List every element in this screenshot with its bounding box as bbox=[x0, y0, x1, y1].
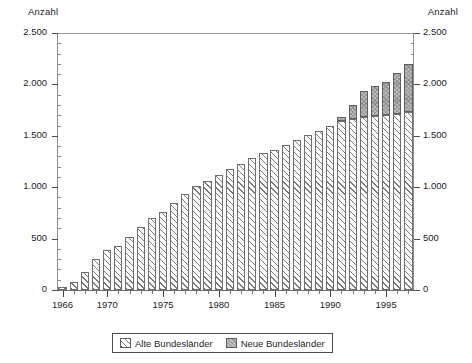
bar-segment-alte-bundeslaender bbox=[58, 287, 66, 290]
y-axis-tick-right bbox=[414, 136, 420, 137]
legend-item-neue-bundeslaender: Neue Bundesländer bbox=[226, 338, 325, 349]
x-axis-tick-minor bbox=[141, 291, 142, 294]
x-axis-tick-minor bbox=[96, 291, 97, 294]
bar-segment-alte-bundeslaender bbox=[125, 237, 133, 290]
y-axis-label-right: 1.500 bbox=[423, 129, 469, 140]
chart-container: Anzahl Anzahl 05001.0001.5002.0002.500 0… bbox=[0, 0, 472, 363]
y-axis-label-left: 500 bbox=[5, 232, 47, 243]
bar-segment-alte-bundeslaender bbox=[337, 121, 345, 290]
x-axis-tick-minor bbox=[397, 291, 398, 294]
legend-label-neue-bundeslaender: Neue Bundesländer bbox=[241, 338, 325, 349]
bar-segment-neue-bundeslaender bbox=[371, 86, 379, 116]
x-axis-tick-minor bbox=[375, 291, 376, 294]
bar-segment-alte-bundeslaender bbox=[404, 112, 412, 290]
bar-segment-alte-bundeslaender bbox=[393, 114, 401, 290]
bar-stack bbox=[349, 33, 357, 290]
bar-segment-alte-bundeslaender bbox=[159, 212, 167, 290]
bar-segment-alte-bundeslaender bbox=[360, 117, 368, 290]
bar-segment-alte-bundeslaender bbox=[304, 135, 312, 290]
bar-stack bbox=[248, 33, 256, 290]
bar-stack bbox=[337, 33, 345, 290]
x-axis-tick-major bbox=[219, 291, 220, 297]
y-axis-label-left: 0 bbox=[5, 283, 47, 294]
bar-stack bbox=[382, 33, 390, 290]
bar-stack bbox=[237, 33, 245, 290]
x-axis-tick-minor bbox=[297, 291, 298, 294]
y-axis-label-left: 2.500 bbox=[5, 26, 47, 37]
x-axis-tick-major bbox=[386, 291, 387, 297]
bar-stack bbox=[293, 33, 301, 290]
bar-stack bbox=[371, 33, 379, 290]
plot-area bbox=[57, 33, 414, 290]
y-axis-label-left: 1.500 bbox=[5, 129, 47, 140]
bar-stack bbox=[203, 33, 211, 290]
x-axis-tick-minor bbox=[341, 291, 342, 294]
y-axis-tick-right bbox=[414, 290, 420, 291]
bar-segment-alte-bundeslaender bbox=[349, 119, 357, 290]
x-axis-tick-minor bbox=[196, 291, 197, 294]
bar-segment-alte-bundeslaender bbox=[92, 259, 100, 290]
y-axis-tick-left bbox=[52, 290, 58, 291]
bar-segment-alte-bundeslaender bbox=[137, 227, 145, 290]
y-axis-label-left: 2.000 bbox=[5, 77, 47, 88]
x-axis-tick-minor bbox=[118, 291, 119, 294]
bar-segment-alte-bundeslaender bbox=[282, 145, 290, 290]
bar-stack bbox=[393, 33, 401, 290]
bar-stack bbox=[114, 33, 122, 290]
legend-swatch-gray-icon bbox=[226, 338, 237, 348]
x-axis-tick-minor bbox=[241, 291, 242, 294]
bar-segment-alte-bundeslaender bbox=[293, 140, 301, 290]
x-axis-tick-major bbox=[107, 291, 108, 297]
x-axis-tick-minor bbox=[364, 291, 365, 294]
bar-stack bbox=[192, 33, 200, 290]
x-axis-tick-minor bbox=[230, 291, 231, 294]
bar-stack bbox=[215, 33, 223, 290]
bar-segment-alte-bundeslaender bbox=[215, 175, 223, 290]
x-axis-tick-minor bbox=[74, 291, 75, 294]
bar-segment-alte-bundeslaender bbox=[114, 246, 122, 290]
bar-stack bbox=[404, 33, 412, 290]
bar-segment-neue-bundeslaender bbox=[382, 82, 390, 115]
bar-stack bbox=[70, 33, 78, 290]
x-axis-tick-major bbox=[163, 291, 164, 297]
bar-segment-neue-bundeslaender bbox=[393, 73, 401, 114]
x-axis-label: 1990 bbox=[320, 299, 341, 310]
bar-stack bbox=[58, 33, 66, 290]
x-axis-tick-minor bbox=[319, 291, 320, 294]
x-axis-tick-minor bbox=[353, 291, 354, 294]
x-axis-line bbox=[57, 290, 414, 291]
bar-stack bbox=[103, 33, 111, 290]
bar-stack bbox=[226, 33, 234, 290]
bar-segment-neue-bundeslaender bbox=[404, 64, 412, 112]
bar-segment-alte-bundeslaender bbox=[326, 126, 334, 290]
x-axis-label: 1975 bbox=[152, 299, 173, 310]
x-axis-tick-minor bbox=[308, 291, 309, 294]
x-axis-tick-minor bbox=[85, 291, 86, 294]
y-axis-right-caption: Anzahl bbox=[428, 6, 458, 17]
y-axis-tick-right bbox=[414, 187, 420, 188]
x-axis-tick-minor bbox=[174, 291, 175, 294]
y-axis-label-right: 0 bbox=[423, 283, 469, 294]
chart-legend: Alte Bundesländer Neue Bundesländer bbox=[112, 333, 333, 353]
bar-segment-alte-bundeslaender bbox=[371, 116, 379, 290]
bar-segment-alte-bundeslaender bbox=[237, 164, 245, 290]
bar-stack bbox=[137, 33, 145, 290]
x-axis-label: 1970 bbox=[97, 299, 118, 310]
bar-segment-alte-bundeslaender bbox=[248, 158, 256, 290]
bar-stack bbox=[270, 33, 278, 290]
x-axis-label: 1995 bbox=[376, 299, 397, 310]
x-axis-tick-major bbox=[275, 291, 276, 297]
legend-item-alte-bundeslaender: Alte Bundesländer bbox=[120, 338, 213, 349]
bar-segment-alte-bundeslaender bbox=[226, 169, 234, 290]
bar-segment-neue-bundeslaender bbox=[349, 105, 357, 119]
bar-stack bbox=[315, 33, 323, 290]
bar-segment-alte-bundeslaender bbox=[315, 131, 323, 290]
x-axis-tick-minor bbox=[152, 291, 153, 294]
bar-stack bbox=[304, 33, 312, 290]
bar-segment-alte-bundeslaender bbox=[270, 150, 278, 290]
bar-segment-alte-bundeslaender bbox=[192, 186, 200, 290]
bar-stack bbox=[326, 33, 334, 290]
y-axis-label-right: 1.000 bbox=[423, 180, 469, 191]
bar-segment-alte-bundeslaender bbox=[382, 115, 390, 290]
bar-segment-neue-bundeslaender bbox=[337, 117, 345, 121]
